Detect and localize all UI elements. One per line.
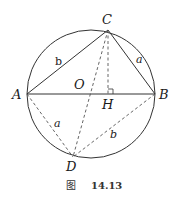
label-o: O [74, 77, 85, 92]
side-label-ad: a [54, 117, 61, 130]
label-c: C [102, 12, 112, 27]
caption-prefix: 图 [66, 180, 76, 191]
label-d: D [65, 159, 77, 174]
right-angle-marker [108, 89, 113, 94]
side-label-bc: a [136, 53, 143, 66]
label-b: B [158, 87, 169, 102]
segment-ac [27, 30, 108, 94]
circle-diagram: C A B O H D b a a b 图 14.13 [0, 0, 179, 198]
caption-number: 14.13 [91, 180, 122, 191]
label-a: A [11, 87, 21, 102]
side-label-ac: b [55, 55, 62, 68]
segment-bd-dashed [73, 94, 155, 157]
side-label-bd: b [110, 128, 117, 141]
segment-cb [108, 30, 155, 94]
segment-ad-dashed [27, 94, 73, 157]
label-h: H [101, 97, 114, 112]
